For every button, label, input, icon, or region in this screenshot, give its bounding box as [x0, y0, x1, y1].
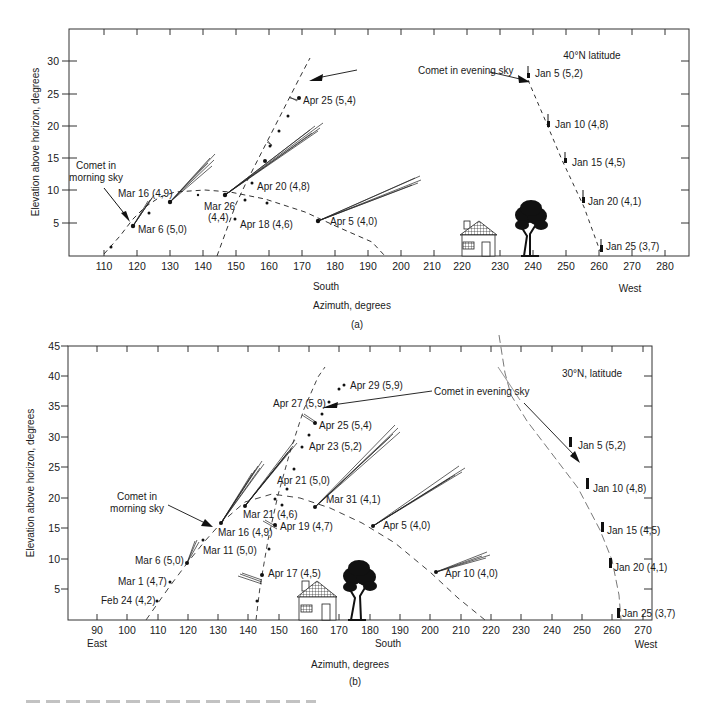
- panel-b: 5 10 15 20 25 30 35 40 45 90 100 110 120…: [25, 335, 675, 687]
- ytick-b: 30: [48, 431, 60, 443]
- label-b-apr23: Apr 23 (5,2): [309, 441, 362, 452]
- label-a-apr18: Apr 18 (4,6): [240, 219, 293, 230]
- xtick-b: 150: [270, 624, 288, 636]
- label-b-apr27: Apr 27 (5,9): [273, 398, 326, 409]
- xtick-b: 230: [512, 624, 530, 636]
- plot-frame-a: [69, 29, 689, 256]
- morning-arrowhead-a: [121, 211, 130, 222]
- latitude-label-a: 40°N latitude: [563, 50, 621, 61]
- ytick-b: 35: [48, 400, 60, 412]
- xtick-b: 90: [91, 624, 103, 636]
- xtick-b: 260: [603, 624, 621, 636]
- evening-note-b: Comet in evening sky: [434, 386, 530, 397]
- xtick-a: 250: [557, 260, 575, 272]
- label-b-mar11: Mar 11 (5,0): [203, 545, 257, 556]
- xtick-a: 260: [590, 260, 608, 272]
- xtick-a: 180: [326, 260, 344, 272]
- xtick-a: 140: [194, 260, 212, 272]
- xtick-b: 110: [150, 624, 167, 636]
- x-axis-title-b: Azimuth, degrees: [311, 659, 389, 670]
- label-a-jan25: Jan 25 (3,7): [606, 241, 659, 252]
- morning-note-a-2: morning sky: [69, 172, 123, 183]
- top-ticks-a: [104, 29, 665, 35]
- panel-label-b: (b): [349, 676, 361, 687]
- xtick-b: 250: [573, 624, 591, 636]
- label-a-apr5: Apr 5 (4,0): [330, 216, 377, 227]
- house-icon-a: [460, 221, 497, 256]
- figure-caption-cutoff: [26, 700, 316, 703]
- ytick-b: 25: [48, 461, 60, 473]
- west-label-b: West: [635, 639, 658, 650]
- y-axis-title-a: Elevation above horizon, degrees: [30, 68, 41, 216]
- east-label-b: East: [87, 638, 107, 649]
- xtick-b: 190: [391, 624, 409, 636]
- xtick-b: 200: [421, 624, 439, 636]
- ytick-b: 10: [48, 553, 60, 565]
- xtick-b: 160: [300, 624, 318, 636]
- tree-icon-b: [343, 560, 377, 620]
- label-b-apr5: Apr 5 (4,0): [383, 520, 430, 531]
- label-b-mar6: Mar 6 (5,0): [135, 555, 184, 566]
- ytick-b: 40: [48, 370, 60, 382]
- label-b-mar16: Mar 16 (4,9): [218, 527, 272, 538]
- label-b-mar1: Mar 1 (4,7): [118, 576, 167, 587]
- label-b-apr25: Apr 25 (5,4): [319, 420, 372, 431]
- xtick-b: 140: [239, 624, 257, 636]
- house-icon-b: [297, 581, 337, 620]
- morning-note-a-1: Comet in: [76, 160, 116, 171]
- ytick-b: 15: [48, 522, 60, 534]
- label-b-mar21: Mar 21 (4,6): [243, 509, 297, 520]
- xtick-a: 110: [96, 260, 113, 272]
- south-label-b: South: [375, 638, 401, 649]
- xtick-b: 240: [543, 624, 561, 636]
- bottom-ticks-a: [104, 250, 665, 256]
- ytick-b: 20: [48, 492, 60, 504]
- ytick-a-20: 20: [47, 120, 59, 132]
- xtick-a: 130: [161, 260, 179, 272]
- label-a-apr20: Apr 20 (4,8): [257, 181, 310, 192]
- label-a-mar16: Mar 16 (4,9): [118, 188, 172, 199]
- xtick-a: 240: [524, 260, 542, 272]
- label-a-apr25: Apr 25 (5,4): [303, 95, 356, 106]
- xtick-a: 160: [260, 260, 278, 272]
- label-b-apr29: Apr 29 (5,9): [350, 380, 403, 391]
- label-b-jan20: Jan 20 (4,1): [614, 562, 667, 573]
- ytick-a-15: 15: [47, 152, 59, 164]
- evening-note-a: Comet in evening sky: [418, 65, 514, 76]
- ytick-a-10: 10: [47, 184, 59, 196]
- xtick-a: 120: [128, 260, 146, 272]
- evening-pointer-a: [322, 70, 357, 77]
- xtick-a: 150: [227, 260, 245, 272]
- top-ticks-b: [97, 346, 643, 352]
- xtick-a: 190: [359, 260, 377, 272]
- west-label-a: West: [619, 283, 642, 294]
- tree-icon-a: [515, 200, 548, 256]
- label-b-jan25: Jan 25 (3,7): [622, 608, 675, 619]
- comet-tails-a: [133, 97, 421, 226]
- label-b-apr17: Apr 17 (4,5): [268, 568, 321, 579]
- evening-pointer-b2: [524, 403, 576, 457]
- latitude-label-b: 30°N, latitude: [562, 368, 623, 379]
- label-a-mar26b: (4,4): [208, 212, 229, 223]
- label-a-jan10: Jan 10 (4,8): [555, 119, 608, 130]
- ytick-a-30: 30: [47, 55, 59, 67]
- label-b-jan5: Jan 5 (5,2): [578, 440, 626, 451]
- label-a-mar26a: Mar 26: [204, 201, 236, 212]
- ytick-b: 5: [54, 583, 60, 595]
- label-b-apr10: Apr 10 (4,0): [445, 568, 498, 579]
- label-b-apr21: Apr 21 (5,0): [277, 475, 330, 486]
- xtick-a: 200: [392, 260, 410, 272]
- xtick-b: 120: [179, 624, 197, 636]
- label-a-jan5: Jan 5 (5,2): [535, 68, 583, 79]
- ytick-b: 45: [48, 340, 60, 352]
- ytick-a-25: 25: [47, 88, 59, 100]
- xtick-b: 170: [330, 624, 348, 636]
- south-label-a: South: [313, 281, 339, 292]
- label-b-jan10: Jan 10 (4,8): [593, 483, 646, 494]
- panel-a: 5 10 15 20 25 30 110 120 130 140 150 160…: [30, 29, 689, 330]
- label-b-mar31: Mar 31 (4,1): [326, 494, 380, 505]
- xtick-a: 280: [656, 260, 674, 272]
- morning-pointer-b: [168, 505, 205, 523]
- bottom-ticks-b: [97, 614, 643, 620]
- xtick-b: 130: [209, 624, 227, 636]
